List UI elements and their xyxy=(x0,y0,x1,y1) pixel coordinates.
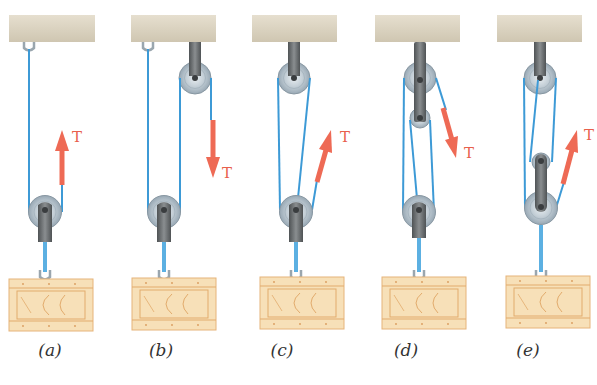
panel-a: T xyxy=(9,15,95,331)
force-label: T xyxy=(72,128,82,146)
rope xyxy=(312,180,317,210)
panel-d: T xyxy=(375,15,474,329)
panel-e: T xyxy=(497,15,594,328)
caption-a: (a) xyxy=(30,340,70,360)
pulley-systems-diagram: T T xyxy=(0,0,597,385)
panel-b: T xyxy=(131,15,232,330)
force-arrow xyxy=(317,150,326,182)
force-label: T xyxy=(464,144,474,162)
crate xyxy=(260,277,344,329)
force-label: T xyxy=(584,126,594,144)
caption-b: (b) xyxy=(141,340,181,360)
ceiling-support xyxy=(252,15,337,42)
crate xyxy=(506,276,590,328)
rope xyxy=(552,78,556,162)
force-label: T xyxy=(222,164,232,182)
rope xyxy=(430,120,434,212)
rope xyxy=(436,78,446,110)
caption-e: (e) xyxy=(508,340,548,360)
crate xyxy=(132,278,216,330)
ceiling-support xyxy=(131,15,216,42)
axle xyxy=(192,75,198,81)
force-arrow xyxy=(563,150,572,184)
rope xyxy=(278,78,280,210)
panel-c: T xyxy=(252,15,350,329)
ceiling-support xyxy=(9,15,95,42)
ceiling-support xyxy=(375,15,460,42)
rope xyxy=(403,78,404,212)
crate xyxy=(9,279,93,331)
crate xyxy=(382,277,466,329)
rope xyxy=(524,78,525,208)
caption-c: (c) xyxy=(262,340,302,360)
caption-d: (d) xyxy=(386,340,426,360)
rope xyxy=(297,78,310,208)
axle xyxy=(42,207,48,213)
force-arrow xyxy=(443,108,452,140)
force-label: T xyxy=(340,128,350,146)
ceiling-support xyxy=(497,15,582,42)
